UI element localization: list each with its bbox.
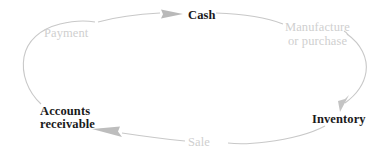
edge-label-manufacture-line-1: Manufacture xyxy=(285,21,350,35)
arrowhead-to-accounts-receivable xyxy=(92,127,122,138)
edge-label-manufacture-or-purchase: Manufacture or purchase xyxy=(285,21,350,48)
node-label-accounts-receivable: Accounts receivable xyxy=(40,105,95,131)
node-label-cash: Cash xyxy=(188,9,216,22)
node-label-accounts-receivable-line-2: receivable xyxy=(40,118,95,131)
arrowhead-to-inventory xyxy=(338,95,349,112)
arc-payment-to-cash xyxy=(98,13,160,22)
arc-inventory-to-sale xyxy=(228,126,325,144)
arc-sale-to-accounts xyxy=(122,133,185,141)
arrowhead-to-cash xyxy=(161,10,183,19)
edge-label-payment: Payment xyxy=(44,27,88,41)
edge-label-sale: Sale xyxy=(188,136,210,150)
arc-cash-to-manufacture xyxy=(216,13,283,24)
edge-label-manufacture-line-2: or purchase xyxy=(285,35,350,49)
node-label-inventory: Inventory xyxy=(312,113,366,126)
operating-cycle-diagram: Cash Inventory Accounts receivable Payme… xyxy=(0,0,389,160)
